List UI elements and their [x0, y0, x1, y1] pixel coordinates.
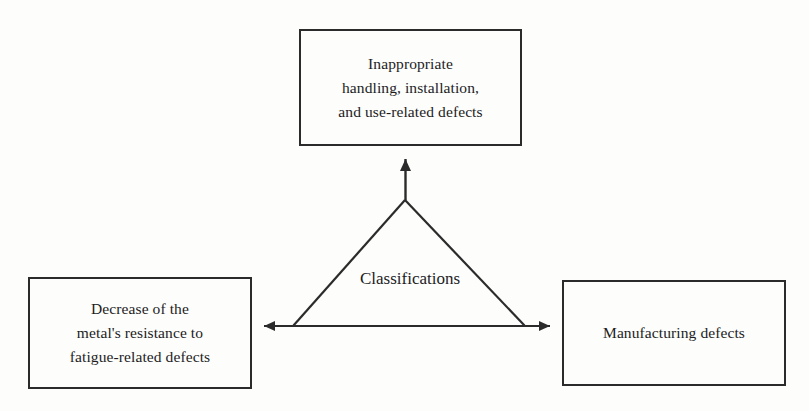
inappropriate-handling-node-label: Inappropriate handling, installation, an… [332, 52, 488, 124]
inappropriate-handling-node[interactable]: Inappropriate handling, installation, an… [299, 29, 522, 146]
triangle-right-leg [405, 200, 525, 326]
manufacturing-defects-node[interactable]: Manufacturing defects [562, 280, 786, 386]
classifications-center-label: Classifications [330, 268, 490, 290]
manufacturing-defects-node-label: Manufacturing defects [597, 321, 751, 345]
triangle-left-leg [294, 200, 406, 326]
fatigue-defects-node-label: Decrease of the metal's resistance to fa… [64, 297, 216, 369]
fatigue-defects-node[interactable]: Decrease of the metal's resistance to fa… [28, 277, 252, 389]
diagram-canvas: Inappropriate handling, installation, an… [0, 0, 809, 411]
